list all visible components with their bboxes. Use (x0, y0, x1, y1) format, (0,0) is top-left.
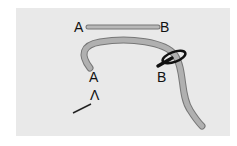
stitch-diagram: A B A B Λ (0, 0, 237, 146)
label-a-top: A (74, 19, 84, 35)
label-a-curve: A (89, 69, 99, 85)
label-lambda: Λ (90, 87, 100, 103)
label-b-loop: B (157, 69, 166, 85)
needle-line-icon (73, 104, 91, 113)
label-b-top: B (160, 19, 169, 35)
